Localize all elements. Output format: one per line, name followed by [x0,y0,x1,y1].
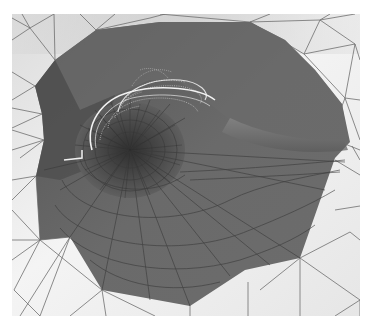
mesh-render-figure [0,0,370,326]
mesh-render-svg [0,0,370,326]
render-frame [12,14,360,316]
